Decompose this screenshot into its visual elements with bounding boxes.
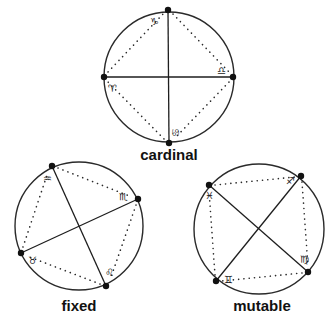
mutable-axis-sagittarius-gemini <box>216 176 301 281</box>
mutable-point-sagittarius <box>298 173 304 179</box>
cardinal-point-capricorn <box>165 7 171 13</box>
mutable-point-virgo <box>305 269 311 275</box>
gemini-icon: ♊ <box>224 274 233 285</box>
cardinal-diagram: ♑ ♎ ♋ ♈ cardinal <box>101 7 236 163</box>
cardinal-dotted-edge <box>173 14 229 72</box>
virgo-icon: ♍ <box>300 254 309 265</box>
cardinal-point-aries <box>101 74 107 80</box>
fixed-label: fixed <box>61 297 96 314</box>
mutable-dotted-edge <box>209 191 215 275</box>
fixed-dotted-edge <box>27 256 100 284</box>
mutable-diagram: ♐ ♍ ♊ ♓ mutable <box>194 164 324 314</box>
libra-icon: ♎ <box>217 65 226 76</box>
scorpio-icon: ♏ <box>119 191 128 202</box>
cardinal-label: cardinal <box>140 146 198 163</box>
cardinal-point-libra <box>230 74 236 80</box>
cancer-icon: ♋ <box>170 128 181 137</box>
leo-icon: ♌ <box>105 267 114 278</box>
pisces-icon: ♓ <box>205 190 214 201</box>
fixed-point-aquarius <box>49 163 55 169</box>
mutable-dotted-edge <box>222 273 302 281</box>
mutable-dotted-edge <box>215 177 295 185</box>
capricorn-icon: ♑ <box>150 16 159 27</box>
aquarius-icon: ♒ <box>43 173 52 184</box>
mutable-label: mutable <box>233 297 291 314</box>
fixed-point-taurus <box>18 250 24 256</box>
sagittarius-icon: ♐ <box>286 175 295 186</box>
aries-icon: ♈ <box>108 83 117 94</box>
mutable-point-pisces <box>206 182 212 188</box>
mutable-point-gemini <box>213 278 219 284</box>
cardinal-dotted-edge <box>174 82 229 139</box>
fixed-point-leo <box>103 283 109 289</box>
taurus-icon: ♉ <box>28 255 37 266</box>
fixed-point-scorpio <box>135 196 141 202</box>
fixed-diagram: ♒ ♏ ♌ ♉ fixed <box>15 162 143 314</box>
fixed-axis-scorpio-taurus <box>21 199 138 253</box>
modalities-diagram: ♑ ♎ ♋ ♈ cardinal ♒ ♏ ♌ ♉ fixed <box>0 0 335 327</box>
